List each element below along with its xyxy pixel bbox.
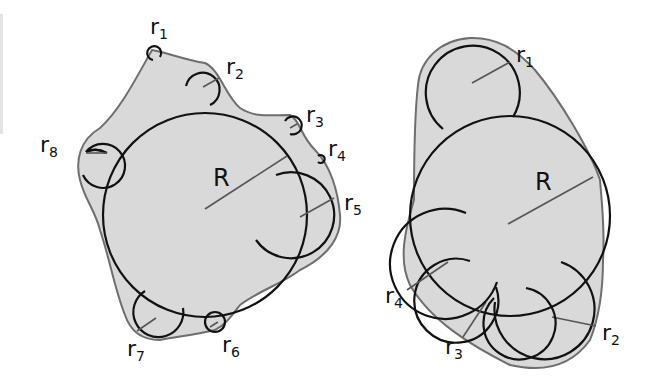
left-r1-label: r1 bbox=[150, 14, 168, 42]
right-R-label: R bbox=[535, 168, 552, 196]
left-r7-label: r7 bbox=[127, 336, 145, 364]
left-r5-label: r5 bbox=[344, 190, 362, 218]
left-r2-label: r2 bbox=[226, 54, 244, 82]
left-r4-label: r4 bbox=[328, 136, 346, 164]
right-panel: r1 r2 r3 r4 R bbox=[385, 38, 620, 368]
left-r8-label: r8 bbox=[40, 132, 58, 160]
right-r1-label: r1 bbox=[516, 42, 534, 70]
right-r3-label: r3 bbox=[445, 334, 463, 362]
left-r3-label: r3 bbox=[306, 102, 324, 130]
right-r2-label: r2 bbox=[602, 320, 620, 348]
left-panel: r1 r2 r3 r4 r5 r6 r7 r8 R bbox=[40, 14, 362, 364]
left-hull-shape bbox=[78, 50, 340, 340]
circle-hull-diagram: r1 r2 r3 r4 r5 r6 r7 r8 R r1 r2 r3 r4 R bbox=[0, 0, 646, 389]
right-r4-label: r4 bbox=[385, 283, 403, 311]
left-r6-label: r6 bbox=[222, 332, 240, 360]
left-R-label: R bbox=[213, 164, 230, 192]
